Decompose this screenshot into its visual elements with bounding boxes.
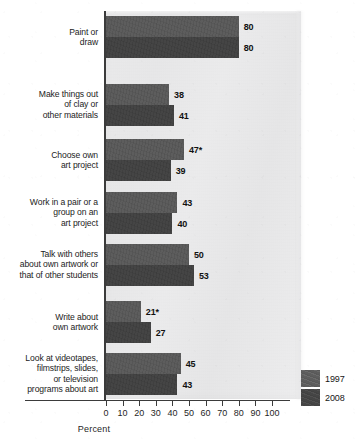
bar-value-1997-2: 47* [189, 145, 202, 155]
x-tick-30 [156, 401, 157, 406]
x-tick-50 [189, 401, 190, 406]
chart-legend: 1997 2008 [301, 369, 345, 407]
x-tick-label-90: 90 [250, 408, 260, 419]
x-tick-20 [139, 401, 140, 406]
bar-value-2008-1: 41 [179, 111, 189, 121]
x-tick-label-0: 0 [103, 408, 108, 419]
category-label-line: or television [0, 374, 98, 384]
bar-2008-1 [106, 105, 174, 126]
legend-label-1997: 1997 [325, 374, 345, 384]
category-label-3: Work in a pair or agroup on anart projec… [0, 197, 98, 228]
category-label-line: other materials [0, 110, 98, 120]
category-label-line: that of other students [0, 270, 98, 280]
x-tick-40 [172, 401, 173, 406]
x-tick-60 [206, 401, 207, 406]
bar-1997-6 [106, 353, 181, 374]
bar-value-1997-0: 80 [244, 22, 254, 32]
bar-2008-4 [106, 265, 194, 286]
legend-label-2008: 2008 [325, 393, 345, 403]
bar-value-1997-4: 50 [194, 250, 204, 260]
x-tick-label-40: 40 [167, 408, 177, 419]
legend-swatch-1997-icon [301, 370, 320, 387]
category-label-4: Talk with othersabout own artwork orthat… [0, 249, 98, 280]
bar-2008-2 [106, 160, 171, 181]
category-label-line: group on an [0, 208, 98, 218]
x-tick-90 [255, 401, 256, 406]
bar-1997-5 [106, 301, 141, 322]
category-label-1: Make things outof clay orother materials [0, 89, 98, 120]
bar-2008-0 [106, 37, 239, 58]
category-label-line: Choose own [0, 150, 98, 160]
x-tick-label-80: 80 [234, 408, 244, 419]
x-tick-80 [239, 401, 240, 406]
bar-value-2008-3: 40 [177, 219, 187, 229]
bar-2008-3 [106, 213, 172, 234]
bar-1997-4 [106, 244, 189, 265]
x-tick-label-70: 70 [217, 408, 227, 419]
x-tick-label-30: 30 [151, 408, 161, 419]
category-label-line: Write about [0, 312, 98, 322]
bar-2008-5 [106, 322, 151, 343]
x-tick-label-100: 100 [264, 408, 279, 419]
category-label-line: Talk with others [0, 249, 98, 259]
category-label-line: Make things out [0, 89, 98, 99]
bar-1997-2 [106, 139, 184, 160]
bar-1997-0 [106, 16, 239, 37]
x-axis-line [25, 400, 290, 401]
bar-1997-1 [106, 84, 169, 105]
bar-chart: 0102030405060708090100 Paint ordrawMake … [0, 0, 360, 446]
category-label-line: Look at videotapes, [0, 353, 98, 363]
x-tick-label-60: 60 [201, 408, 211, 419]
category-label-line: programs about art [0, 384, 98, 394]
legend-item-2008: 2008 [301, 388, 345, 407]
category-label-6: Look at videotapes,filmstrips, slides,or… [0, 353, 98, 395]
bar-value-2008-2: 39 [176, 166, 186, 176]
x-tick-70 [222, 401, 223, 406]
category-label-line: Work in a pair or a [0, 197, 98, 207]
category-label-line: of clay or [0, 100, 98, 110]
category-label-line: filmstrips, slides, [0, 364, 98, 374]
bar-value-1997-1: 38 [174, 90, 184, 100]
x-tick-label-10: 10 [118, 408, 128, 419]
bar-value-2008-6: 43 [182, 380, 192, 390]
x-tick-label-20: 20 [134, 408, 144, 419]
x-tick-0 [106, 401, 107, 406]
category-label-line: draw [0, 37, 98, 47]
x-axis-title: Percent [0, 424, 360, 434]
bar-2008-6 [106, 374, 177, 395]
category-label-line: art project [0, 160, 98, 170]
legend-item-1997: 1997 [301, 369, 345, 388]
bar-value-2008-4: 53 [199, 271, 209, 281]
category-label-line: own artwork [0, 322, 98, 332]
legend-swatch-2008-icon [301, 389, 320, 406]
category-label-2: Choose ownart project [0, 150, 98, 171]
bar-value-1997-5: 21* [146, 307, 159, 317]
category-label-line: about own artwork or [0, 260, 98, 270]
category-label-0: Paint ordraw [0, 27, 98, 48]
bar-value-1997-3: 43 [182, 198, 192, 208]
category-label-line: art project [0, 218, 98, 228]
category-label-line: Paint or [0, 27, 98, 37]
bar-value-2008-5: 27 [156, 328, 166, 338]
bar-1997-3 [106, 192, 177, 213]
bar-value-1997-6: 45 [186, 359, 196, 369]
x-axis-title-text: Percent [78, 424, 110, 434]
category-label-5: Write aboutown artwork [0, 312, 98, 333]
x-tick-10 [123, 401, 124, 406]
bar-value-2008-0: 80 [244, 43, 254, 53]
x-tick-label-50: 50 [184, 408, 194, 419]
x-tick-100 [272, 401, 273, 406]
